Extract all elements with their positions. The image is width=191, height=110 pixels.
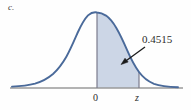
normal-distribution-figure: c. 0.4515 0 z (0, 0, 191, 110)
part-label: c. (8, 2, 14, 13)
area-value-label: 0.4515 (142, 33, 172, 46)
axis-tick-label-zero: 0 (93, 92, 98, 103)
axis-tick-label-z: z (135, 92, 139, 103)
